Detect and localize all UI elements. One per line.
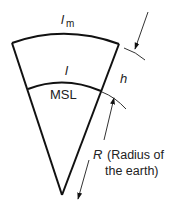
- h-tick-bottom: [102, 92, 126, 109]
- label-r: R: [93, 147, 102, 162]
- label-lm: l: [61, 12, 65, 27]
- label-lm-subscript: m: [66, 18, 74, 29]
- h-tick-top: [124, 48, 145, 60]
- outer-arc-lm: [12, 34, 119, 44]
- sector-left-edge: [12, 43, 62, 195]
- h-arrow-icon: [135, 12, 148, 49]
- radius-arrow-upper-icon: [104, 98, 114, 140]
- label-msl: MSL: [50, 87, 77, 102]
- label-radius-desc-1: (Radius of: [107, 148, 164, 162]
- label-h: h: [120, 71, 127, 86]
- earth-sector-diagram: l m l MSL h R (Radius of the earth): [0, 0, 182, 208]
- radius-arrow-lower-icon: [78, 160, 89, 199]
- label-radius-desc-2: the earth): [105, 164, 159, 178]
- label-l: l: [65, 63, 69, 78]
